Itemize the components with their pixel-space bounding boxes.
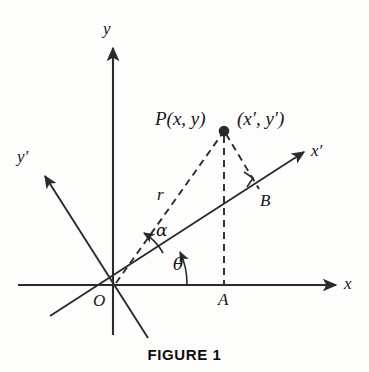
figure-caption: FIGURE 1 [0, 346, 369, 363]
y-prime-axis [45, 176, 148, 338]
x-prime-axis [50, 152, 304, 316]
point-p-marker [219, 126, 230, 137]
figure-container: y x y′ x′ P(x, y) (x′, y′) r α θ O A B F… [0, 0, 369, 372]
radius-label: r [157, 186, 164, 203]
angle-theta-label: θ [173, 256, 183, 273]
foot-b-label: B [260, 192, 270, 209]
y-axis-label: y [103, 20, 111, 37]
origin-label: O [93, 292, 105, 309]
point-p-label: P(x, y) [155, 109, 206, 128]
segment-r [116, 134, 222, 283]
angle-alpha-label: α [156, 222, 167, 239]
x-prime-axis-label: x′ [311, 142, 322, 159]
segment-pb [226, 134, 259, 189]
x-axis-label: x [344, 275, 352, 292]
y-prime-axis-label: y′ [17, 148, 28, 165]
rotation-of-axes-diagram [0, 0, 369, 372]
point-p-prime-label: (x′, y′) [237, 109, 284, 128]
foot-a-label: A [218, 291, 228, 308]
